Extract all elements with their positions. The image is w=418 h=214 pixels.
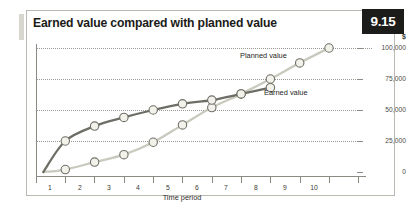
chart-series-layer xyxy=(0,0,418,214)
series-line xyxy=(43,88,270,172)
data-point-marker xyxy=(120,113,128,121)
series-line xyxy=(43,48,329,172)
data-point-marker xyxy=(90,122,98,130)
data-point-marker xyxy=(149,138,157,146)
data-point-marker xyxy=(325,44,333,52)
series-planned-value xyxy=(43,44,333,174)
data-point-marker xyxy=(237,90,245,98)
figure-container: Earned value compared with planned value… xyxy=(0,0,418,214)
data-point-marker xyxy=(61,165,69,173)
data-point-marker xyxy=(61,137,69,145)
series-annotation-earned-value: Earned value xyxy=(264,88,308,97)
data-point-marker xyxy=(266,75,274,83)
data-point-marker xyxy=(90,158,98,166)
data-point-marker xyxy=(178,121,186,129)
data-point-marker xyxy=(149,106,157,114)
data-point-marker xyxy=(178,100,186,108)
data-point-marker xyxy=(208,96,216,104)
series-earned-value xyxy=(43,83,274,172)
series-annotation-planned-value: Planned value xyxy=(240,51,287,60)
data-point-marker xyxy=(296,59,304,67)
data-point-marker xyxy=(120,150,128,158)
